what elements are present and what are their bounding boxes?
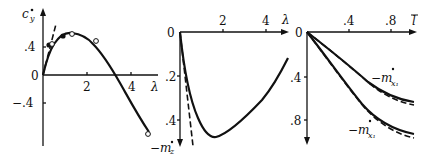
p1-curve-label: −m bbox=[150, 141, 171, 155]
p2-tick-0: 0 bbox=[167, 26, 175, 40]
p3-tick-4: .4 bbox=[290, 71, 302, 85]
p3-tick-8: .8 bbox=[290, 114, 301, 128]
p3-x-tick-4: .4 bbox=[343, 14, 355, 28]
p1-tick-m4: −.4 bbox=[12, 96, 34, 110]
p1-x-label: λ bbox=[150, 80, 159, 94]
p1-tick-p4: .4 bbox=[24, 40, 36, 54]
p1-y-label: c bbox=[22, 7, 29, 21]
p1-y-arrow-icon bbox=[40, 8, 46, 16]
p3-upper-dashed bbox=[307, 32, 414, 105]
svg-text:x₁: x₁ bbox=[368, 131, 376, 140]
svg-text:x₁: x₁ bbox=[391, 79, 399, 88]
panel-1-cy: .4 0 −.4 2 4 λ c y −m z bbox=[12, 7, 175, 156]
p2-curve bbox=[180, 32, 288, 137]
p3-upper-label: −m bbox=[371, 71, 392, 85]
svg-text:y: y bbox=[29, 14, 35, 23]
p1-tick-2: 2 bbox=[83, 80, 91, 94]
p2-tick-2: .2 bbox=[165, 70, 176, 84]
p3-upper-solid bbox=[307, 32, 414, 102]
p2-tick-4: .4 bbox=[165, 114, 177, 128]
p1-tick-0: 0 bbox=[31, 69, 39, 83]
p2-x-tick-4: 4 bbox=[262, 14, 270, 28]
panel-3-mx: 0 .4 .8 .4 .8 l −m x₁ −m x₁ bbox=[290, 14, 418, 145]
svg-text:z: z bbox=[169, 147, 175, 156]
panel-2-mz: 0 .2 .4 2 4 λ bbox=[165, 13, 290, 147]
p3-tick-0: 0 bbox=[295, 26, 303, 40]
p3-lower-label: −m bbox=[348, 123, 369, 137]
p3-x-label: l bbox=[412, 14, 416, 28]
p2-x-tick-2: 2 bbox=[219, 14, 227, 28]
p1-tick-4: 4 bbox=[128, 80, 136, 94]
chart-figure: .4 0 −.4 2 4 λ c y −m z 0 .2 .4 2 4 bbox=[0, 0, 428, 158]
p2-x-label: λ bbox=[281, 13, 290, 27]
p3-x-tick-8: .8 bbox=[385, 14, 396, 28]
